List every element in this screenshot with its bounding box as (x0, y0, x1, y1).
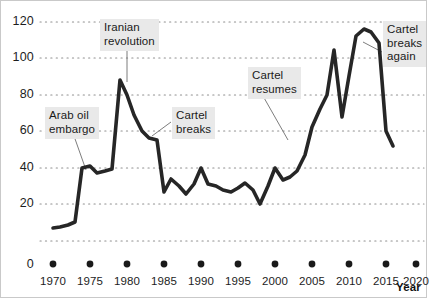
x-tick-dot-2015 (383, 261, 390, 268)
y-tick-label-0: 0 (0, 258, 34, 271)
annotation-arab-oil-embargo: Arab oil embargo (45, 107, 99, 139)
x-tick-dot-2020 (413, 261, 420, 268)
x-tick-dot-1980 (124, 261, 131, 268)
chart-frame (1, 1, 427, 298)
x-tick-dot-1985 (161, 261, 168, 268)
x-tick-dot-2010 (346, 261, 353, 268)
leader-cartel-resumes (263, 96, 288, 140)
x-tick-markers (50, 261, 420, 268)
x-tick-dot-2005 (309, 261, 316, 268)
x-tick-dot-2000 (272, 261, 279, 268)
x-axis-title: Year (396, 281, 421, 293)
annotation-iranian-revolution: Iranian revolution (100, 19, 159, 51)
leader-cartel-breaks (152, 122, 171, 136)
x-tick-dot-1995 (235, 261, 242, 268)
y-tick-label-20: 20 (0, 197, 34, 210)
y-tick-label-120: 120 (0, 15, 34, 28)
y-tick-label-100: 100 (0, 51, 34, 64)
data-series-crude-oil-price (53, 29, 393, 228)
annotation-cartel-breaks: Cartel breaks (172, 107, 215, 139)
annotation-cartel-resumes: Cartel resumes (248, 67, 301, 99)
x-tick-dot-1975 (87, 261, 94, 268)
x-tick-dot-1990 (198, 261, 205, 268)
y-tick-label-40: 40 (0, 161, 34, 174)
leader-arab-oil-embargo (74, 136, 86, 170)
y-tick-label-80: 80 (0, 88, 34, 101)
annotation-cartel-breaks-again: Cartel breaks again (383, 21, 426, 67)
x-tick-dot-1970 (50, 261, 57, 268)
y-tick-label-60: 60 (0, 124, 34, 137)
